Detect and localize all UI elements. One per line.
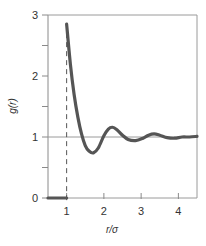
- y-tick-label: 2: [32, 70, 38, 82]
- y-axis-ticks: 0123: [32, 9, 48, 204]
- rdf-curve: [48, 24, 197, 198]
- x-tick-label: 4: [175, 205, 181, 217]
- y-axis-title: g(r): [7, 98, 18, 114]
- y-tick-label: 3: [32, 9, 38, 21]
- plot-frame: [48, 15, 197, 198]
- x-tick-label: 2: [101, 205, 107, 217]
- x-tick-label: 3: [138, 205, 144, 217]
- x-tick-label: 1: [64, 205, 70, 217]
- x-axis-ticks: 1234: [64, 193, 182, 217]
- x-axis-title: r/σ: [106, 224, 119, 235]
- y-tick-label: 1: [32, 131, 38, 143]
- y-tick-label: 0: [32, 192, 38, 204]
- rdf-chart: 0123 1234 r/σ g(r): [0, 0, 206, 246]
